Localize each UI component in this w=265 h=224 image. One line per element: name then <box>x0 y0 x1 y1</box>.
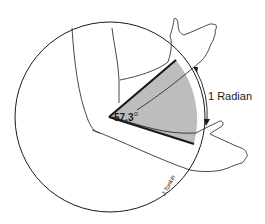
lower-hand-outline <box>196 121 247 170</box>
angle-label: 57.3 <box>114 112 134 123</box>
radian-diagram: 57.3 o 1 Radian J.Tonkin <box>0 0 265 224</box>
upper-arm-outline-right <box>112 28 119 103</box>
degree-symbol: o <box>134 110 138 117</box>
radian-arc-dimension <box>196 70 207 122</box>
upper-forearm-top <box>168 36 171 62</box>
radian-label: 1 Radian <box>208 90 252 102</box>
lower-forearm-bottom <box>92 130 222 172</box>
artist-signature: J.Tonkin <box>160 174 176 198</box>
upper-hand-outline <box>170 18 216 62</box>
upper-arm-outline-left <box>72 28 100 133</box>
